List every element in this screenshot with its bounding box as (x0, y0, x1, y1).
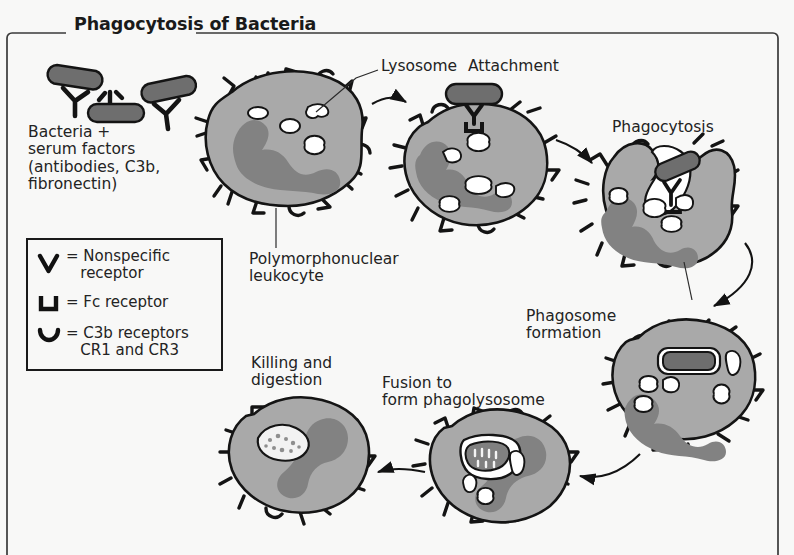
legend-item-nonspecific-receptor: = Nonspecific receptor (66, 248, 170, 282)
legend-item-fc-receptor: = Fc receptor (66, 294, 168, 311)
label-phagocytosis: Phagocytosis (612, 119, 714, 136)
arrow-to-fusion (580, 454, 640, 477)
label-lysosome: Lysosome (381, 58, 457, 75)
arrow-to-phagocytosis (556, 140, 592, 163)
bacterium-glyph (142, 76, 196, 129)
stage-phagocytosis (574, 134, 738, 300)
c3b-receptor-glyph (40, 330, 58, 340)
stage-phagosome-formation (603, 319, 763, 461)
arrow-to-attachment (372, 98, 406, 104)
arrow-to-phagosome (714, 243, 752, 306)
stage-killing-and-digestion (220, 397, 375, 524)
label-bacteria-serum-factors: Bacteria + serum factors (antibodies, C3… (28, 124, 160, 193)
bacterium-glyph (88, 92, 144, 122)
stage-pmn-leukocyte-resting (196, 69, 378, 248)
residual-body (258, 425, 309, 461)
stage-fusion-to-phagolysosome (413, 408, 578, 522)
figure-canvas: Phagocytosis of Bacteria Bacteria + seru… (0, 0, 794, 555)
label-phagosome-formation: Phagosome formation (526, 308, 616, 343)
stage-bacteria-with-serum-factors (48, 65, 196, 129)
arrow-to-killing (378, 469, 425, 472)
label-fusion-to-phagolysosome: Fusion to form phagolysosome (382, 375, 545, 410)
nonspecific-receptor-glyph (40, 256, 57, 271)
label-killing-and-digestion: Killing and digestion (251, 355, 332, 390)
phagosome-vacuole (658, 348, 720, 374)
legend-item-c3b-receptor: = C3b receptors CR1 and CR3 (66, 325, 189, 359)
page-title: Phagocytosis of Bacteria (74, 14, 316, 34)
label-attachment: Attachment (468, 58, 559, 75)
fc-receptor-glyph (41, 296, 56, 309)
label-pmn-leukocyte: Polymorphonuclear leukocyte (249, 251, 399, 286)
stage-attachment (390, 84, 559, 232)
